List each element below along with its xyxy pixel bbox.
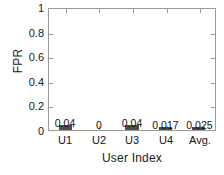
bar-value-label: 0 xyxy=(85,120,113,131)
bar-value-label: 0.025 xyxy=(182,120,217,131)
x-axis-title: User Index xyxy=(48,151,216,165)
x-tick-mark xyxy=(99,9,100,13)
x-tick-label-u2: U2 xyxy=(85,134,113,146)
x-tick-label-u4: U4 xyxy=(152,134,180,146)
x-tick-label-avg: Avg. xyxy=(184,134,216,146)
x-tick-mark xyxy=(200,9,201,13)
y-tick-mark xyxy=(49,34,53,35)
x-tick-label-u3: U3 xyxy=(118,134,146,146)
y-tick-label: 0.6 xyxy=(18,52,44,63)
x-tick-mark xyxy=(66,9,67,13)
y-tick-mark xyxy=(211,83,215,84)
x-tick-mark xyxy=(133,9,134,13)
y-tick-label: 0.4 xyxy=(18,77,44,88)
y-tick-label: 0.8 xyxy=(18,28,44,39)
y-tick-mark xyxy=(49,83,53,84)
y-tick-label: 0 xyxy=(18,126,44,137)
bar-value-label: 0.04 xyxy=(118,118,146,129)
bar-chart-figure: FPR 1 0.8 0.6 0.4 0.2 0 xyxy=(0,0,224,175)
plot-area xyxy=(48,8,216,131)
x-tick-label-u1: U1 xyxy=(51,134,79,146)
y-tick-label: 0.2 xyxy=(18,101,44,112)
y-tick-label: 1 xyxy=(18,3,44,14)
y-tick-mark xyxy=(49,107,53,108)
bar-value-label: 0.017 xyxy=(148,120,183,131)
y-tick-mark xyxy=(211,107,215,108)
bar-value-label: 0.04 xyxy=(51,118,79,129)
y-tick-mark xyxy=(211,34,215,35)
x-tick-mark xyxy=(167,9,168,13)
y-tick-mark xyxy=(49,58,53,59)
y-axis-tick-labels: 1 0.8 0.6 0.4 0.2 0 xyxy=(14,0,44,175)
y-tick-mark xyxy=(211,58,215,59)
